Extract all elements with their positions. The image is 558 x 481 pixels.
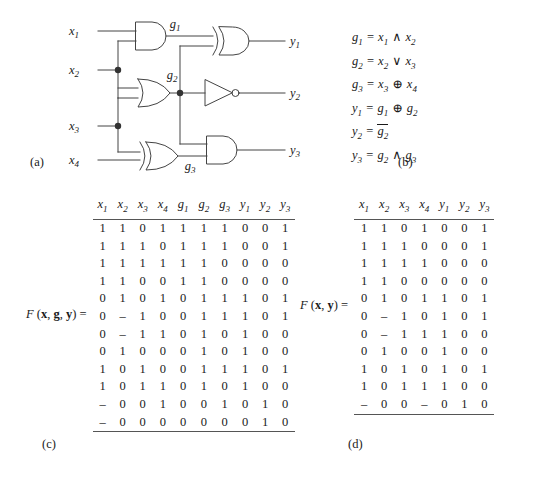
cell-y2-r8: 0 xyxy=(454,343,474,361)
cell-g1-r11: 0 xyxy=(173,396,194,414)
table-row: 1111110000 xyxy=(93,255,296,273)
table-row: 1111000 xyxy=(354,255,494,273)
table-d-function-label: F (x, y) = xyxy=(300,298,354,313)
cell-x2-r1: 1 xyxy=(374,220,394,238)
cell-x1-r6: 0 xyxy=(93,308,113,326)
table-row: 1101111001 xyxy=(93,220,296,238)
cell-x3-r12: 0 xyxy=(133,414,153,432)
cell-y1-r6: 1 xyxy=(235,308,255,326)
cell-y1-r5: 1 xyxy=(235,290,255,308)
cell-y3-r5: 1 xyxy=(474,290,494,308)
table-d-head: x1x2x3x4y1y2y3 xyxy=(354,196,494,220)
equation-5: y2 = g2 xyxy=(352,122,532,146)
cell-x2-r5: 1 xyxy=(113,290,133,308)
cell-x4-r10: 1 xyxy=(153,378,173,396)
cell-x3-r1: 0 xyxy=(133,220,153,238)
cell-g1-r5: 0 xyxy=(173,290,194,308)
cell-x1-r4: 1 xyxy=(93,273,113,291)
cell-y1-r1: 0 xyxy=(434,220,454,238)
table-c-fn-equals: = xyxy=(79,307,86,321)
cell-g1-r8: 0 xyxy=(173,343,194,361)
caption-d: (d) xyxy=(348,437,363,452)
operand-left: x1 xyxy=(378,30,388,44)
cell-y3-r4: 0 xyxy=(275,273,295,291)
cell-x2-r7: – xyxy=(113,326,133,344)
operand-left: g1 xyxy=(377,101,388,115)
cell-y3-r11: 0 xyxy=(474,396,494,414)
cell-x4-r2: 0 xyxy=(153,238,173,256)
cell-x1-r2: 1 xyxy=(93,238,113,256)
cell-x3-r4: 0 xyxy=(394,273,414,291)
equation-6-equals: = xyxy=(362,148,377,162)
cell-g3-r7: 0 xyxy=(214,326,235,344)
cell-x3-r3: 1 xyxy=(133,255,153,273)
table-row: 0–10011101 xyxy=(93,308,296,326)
cell-x3-r9: 1 xyxy=(133,361,153,379)
cell-g3-r12: 0 xyxy=(214,414,235,432)
cell-y3-r3: 0 xyxy=(275,255,295,273)
circuit-label-x2: x2 xyxy=(68,63,80,79)
equation-2: g2 = x2 ∨ x3 xyxy=(352,52,532,76)
table-d-header-row: x1x2x3x4y1y2y3 xyxy=(354,196,494,220)
cell-y1-r2: 0 xyxy=(434,238,454,256)
cell-y3-r7: 0 xyxy=(474,326,494,344)
equation-1-equals: = xyxy=(363,30,378,44)
circuit-label-x4: x4 xyxy=(68,153,80,169)
cell-x3-r7: 1 xyxy=(133,326,153,344)
cell-g1-r4: 1 xyxy=(173,273,194,291)
table-row: 1110001 xyxy=(354,238,494,256)
circuit-label-y1: y1 xyxy=(288,34,300,50)
equation-2-rhs: x2 ∨ x3 xyxy=(378,54,416,68)
cell-x1-r8: 0 xyxy=(93,343,113,361)
cell-x3-r6: 1 xyxy=(394,308,414,326)
cell-x3-r7: 1 xyxy=(394,326,414,344)
operand-left: x3 xyxy=(378,77,388,91)
table-d-wrapper: F (x, y) = x1x2x3x4y1y2y3 11010011110001… xyxy=(300,196,494,415)
cell-x1-r5: 0 xyxy=(354,290,374,308)
operand-right: g2 xyxy=(407,101,418,115)
table-row: 0–10101 xyxy=(354,308,494,326)
circuit-panel: x1 x2 x3 x4 g1 g2 g3 y1 y2 y3 xyxy=(0,0,330,180)
table-row: –001001010 xyxy=(93,396,296,414)
xor-gate-g3-body xyxy=(146,142,178,170)
equation-4: y1 = g1 ⊕ g2 xyxy=(352,99,532,123)
cell-y2-r2: 0 xyxy=(255,238,275,256)
cell-x1-r11: – xyxy=(93,396,113,414)
cell-x3-r1: 0 xyxy=(394,220,414,238)
cell-x4-r6: 0 xyxy=(414,308,434,326)
cell-y1-r11: 0 xyxy=(434,396,454,414)
cell-x4-r7: 1 xyxy=(153,326,173,344)
cell-x1-r4: 1 xyxy=(354,273,374,291)
table-row: –00–010 xyxy=(354,396,494,414)
operand-left: x2 xyxy=(378,54,388,68)
cell-x2-r9: 0 xyxy=(374,361,394,379)
equation-1: g1 = x1 ∧ x2 xyxy=(352,28,532,52)
table-row: 0100010100 xyxy=(93,343,296,361)
operator-symbol: ∧ xyxy=(388,148,405,162)
table-row: 1100000 xyxy=(354,273,494,291)
table-d-fn-equals: = xyxy=(341,298,348,312)
cell-g2-r2: 1 xyxy=(194,238,215,256)
column-header-x4: x4 xyxy=(153,196,173,220)
cell-x1-r2: 1 xyxy=(354,238,374,256)
cell-y3-r6: 1 xyxy=(275,308,295,326)
cell-x1-r10: 1 xyxy=(93,378,113,396)
operand-right: x4 xyxy=(407,77,417,91)
cell-y2-r2: 0 xyxy=(454,238,474,256)
cell-x2-r2: 1 xyxy=(374,238,394,256)
table-row: 1010101 xyxy=(354,361,494,379)
cell-y2-r10: 0 xyxy=(255,378,275,396)
cell-y3-r12: 0 xyxy=(275,414,295,432)
cell-y2-r6: 0 xyxy=(454,308,474,326)
cell-x4-r11: 1 xyxy=(153,396,173,414)
column-header-y2: y2 xyxy=(454,196,474,220)
caption-c: (c) xyxy=(42,437,56,452)
cell-g2-r8: 1 xyxy=(194,343,215,361)
cell-y2-r8: 0 xyxy=(255,343,275,361)
equation-4-rhs: g1 ⊕ g2 xyxy=(377,101,417,115)
cell-x2-r2: 1 xyxy=(113,238,133,256)
column-header-g3: g3 xyxy=(214,196,235,220)
cell-x1-r5: 0 xyxy=(93,290,113,308)
cell-y3-r11: 0 xyxy=(275,396,295,414)
cell-g3-r2: 1 xyxy=(214,238,235,256)
